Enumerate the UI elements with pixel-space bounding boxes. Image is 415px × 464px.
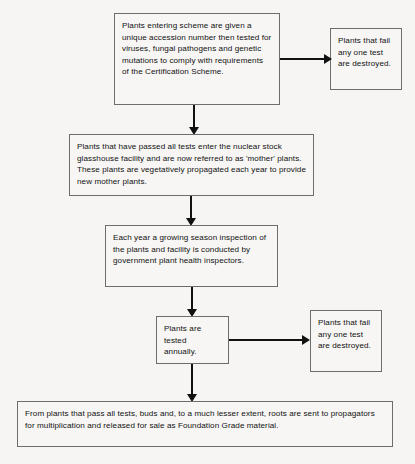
- edge-mother-stock-to-inspection: [184, 196, 198, 226]
- edge-entry-to-fail-top: [280, 52, 332, 66]
- node-entry: Plants entering scheme are given a uniqu…: [114, 13, 280, 105]
- edge-annual-test-to-fail-bottom: [229, 333, 310, 347]
- node-fail-top: Plants that fail any one test are destro…: [330, 28, 402, 90]
- edge-inspection-to-annual-test: [185, 287, 199, 317]
- edge-annual-test-to-foundation: [185, 364, 199, 402]
- flowchart-canvas: Plants entering scheme are given a uniqu…: [0, 0, 415, 464]
- node-annual-test: Plants are tested annually.: [156, 316, 229, 364]
- edge-entry-to-mother-stock: [187, 105, 201, 135]
- node-fail-bottom: Plants that fail any one test are destro…: [310, 310, 382, 372]
- node-mother-stock: Plants that have passed all tests enter …: [69, 134, 314, 196]
- node-inspection: Each year a growing season inspection of…: [105, 225, 278, 287]
- node-foundation: From plants that pass all tests, buds an…: [17, 401, 393, 447]
